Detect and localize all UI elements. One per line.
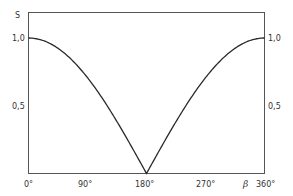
y-tick-left-05: 0,5 bbox=[12, 102, 25, 111]
y-tick-right-05: 0,5 bbox=[268, 102, 281, 111]
y-axis-title: S bbox=[15, 11, 20, 20]
plot-frame bbox=[29, 13, 265, 174]
chart: S 1,0 0,5 1,0 0,5 0° 90° 180° 270° β 360… bbox=[0, 0, 293, 196]
x-tick-180: 180° bbox=[135, 180, 154, 189]
data-curve bbox=[29, 38, 265, 174]
y-tick-left-1: 1,0 bbox=[12, 34, 25, 43]
y-tick-right-1: 1,0 bbox=[268, 34, 281, 43]
x-tick-0: 0° bbox=[24, 180, 33, 189]
x-tick-270: 270° bbox=[196, 180, 215, 189]
x-tick-360: 360° bbox=[256, 180, 275, 189]
x-axis-title: β bbox=[242, 179, 248, 189]
x-tick-90: 90° bbox=[78, 180, 92, 189]
